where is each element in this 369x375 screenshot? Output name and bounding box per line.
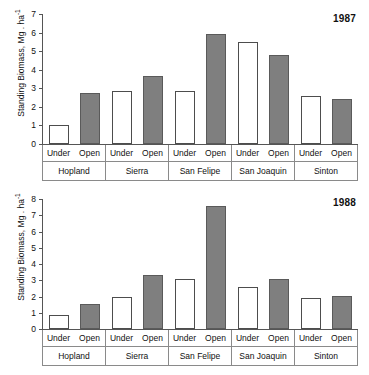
y-axis-tick-label: 4 — [20, 260, 36, 269]
plot-area-1987: 01234567 — [42, 14, 358, 145]
bar-sierra-open — [143, 76, 163, 144]
x-axis-site-label: San Felipe — [169, 347, 231, 366]
x-axis-subcategory-label: Under — [169, 330, 200, 346]
y-axis-tick-label: 3 — [20, 84, 36, 93]
x-axis-subcategory-label: Open — [200, 330, 231, 346]
x-axis-subcategory-row: UnderOpen — [106, 330, 168, 347]
x-axis-subcategory-label: Under — [232, 330, 263, 346]
y-axis-tick-mark — [39, 264, 42, 265]
bar-hopland-open — [80, 93, 100, 144]
x-axis-subcategory-label: Open — [326, 145, 357, 161]
x-axis-labels-1988: UnderOpenHoplandUnderOpenSierraUnderOpen… — [42, 330, 358, 366]
bar-san-felipe-open — [206, 34, 226, 144]
y-axis-tick-mark — [39, 215, 42, 216]
y-axis-tick-label: 7 — [20, 211, 36, 220]
x-axis-subcategory-label: Under — [43, 330, 74, 346]
bar-sinton-open — [332, 296, 352, 329]
x-axis-subcategory-label: Under — [295, 330, 326, 346]
y-axis-tick-mark — [39, 297, 42, 298]
x-axis-group: UnderOpenSierra — [106, 145, 169, 181]
y-axis-tick-label: 6 — [20, 29, 36, 38]
x-axis-subcategory-label: Under — [43, 145, 74, 161]
chart-panel-1988: 1988 Standing Biomass, Mg . ha-1 0123456… — [0, 187, 369, 375]
bar-san-joaquin-under — [238, 287, 258, 329]
x-axis-subcategory-label: Open — [200, 145, 231, 161]
x-axis-subcategory-label: Under — [295, 145, 326, 161]
x-axis-subcategory-row: UnderOpen — [43, 330, 105, 347]
x-axis-subcategory-label: Under — [232, 145, 263, 161]
biomass-figure: 1987 Standing Biomass, Mg . ha-1 0123456… — [0, 0, 369, 375]
x-axis-subcategory-row: UnderOpen — [295, 145, 357, 162]
y-axis-tick-label: 6 — [20, 228, 36, 237]
x-axis-subcategory-label: Open — [137, 330, 168, 346]
x-axis-subcategory-row: UnderOpen — [169, 330, 231, 347]
bar-san-joaquin-open — [269, 279, 289, 329]
x-axis-subcategory-row: UnderOpen — [43, 145, 105, 162]
y-axis-tick-mark — [39, 14, 42, 15]
bar-sinton-open — [332, 99, 352, 144]
x-axis-subcategory-label: Open — [74, 330, 105, 346]
bar-series-1988 — [43, 199, 358, 329]
y-axis-tick-label: 7 — [20, 10, 36, 19]
y-axis-tick-label: 3 — [20, 276, 36, 285]
x-axis-subcategory-row: UnderOpen — [232, 330, 294, 347]
y-axis-tick-label: 8 — [20, 195, 36, 204]
y-axis-tick-label: 0 — [20, 325, 36, 334]
y-axis-tick-mark — [39, 232, 42, 233]
bar-sierra-under — [112, 91, 132, 144]
x-axis-subcategory-label: Open — [263, 145, 294, 161]
x-axis-site-label: Sierra — [106, 347, 168, 366]
x-axis-group: UnderOpenHopland — [43, 145, 106, 181]
x-axis-subcategory-label: Open — [137, 145, 168, 161]
bar-sierra-open — [143, 275, 163, 329]
bar-san-felipe-under — [175, 91, 195, 144]
bar-group — [43, 199, 106, 329]
plot-area-1988: 012345678 — [42, 199, 358, 330]
y-axis-tick-label: 5 — [20, 47, 36, 56]
x-axis-subcategory-label: Under — [169, 145, 200, 161]
chart-panel-1987: 1987 Standing Biomass, Mg . ha-1 0123456… — [0, 0, 369, 188]
bar-group — [106, 199, 169, 329]
y-axis-tick-mark — [39, 248, 42, 249]
x-axis-site-label: San Joaquin — [232, 162, 294, 181]
x-axis-subcategory-row: UnderOpen — [169, 145, 231, 162]
x-axis-group: UnderOpenSinton — [295, 145, 358, 181]
y-axis-tick-label: 0 — [20, 140, 36, 149]
x-axis-subcategory-row: UnderOpen — [295, 330, 357, 347]
bar-san-joaquin-under — [238, 42, 258, 144]
x-axis-subcategory-label: Under — [106, 145, 137, 161]
bar-group — [169, 14, 232, 144]
x-axis-subcategory-label: Open — [326, 330, 357, 346]
x-axis-site-label: San Felipe — [169, 162, 231, 181]
x-axis-group: UnderOpenSan Felipe — [169, 145, 232, 181]
x-axis-subcategory-row: UnderOpen — [232, 145, 294, 162]
y-axis-tick-mark — [39, 280, 42, 281]
y-axis-tick-label: 1 — [20, 309, 36, 318]
y-axis-tick-label: 2 — [20, 103, 36, 112]
bar-sinton-under — [301, 298, 321, 329]
bar-hopland-open — [80, 304, 100, 329]
x-axis-group: UnderOpenHopland — [43, 330, 106, 366]
bar-group — [169, 199, 232, 329]
x-axis-labels-1987: UnderOpenHoplandUnderOpenSierraUnderOpen… — [42, 145, 358, 181]
y-axis-tick-label: 5 — [20, 244, 36, 253]
x-axis-site-label: Sierra — [106, 162, 168, 181]
bar-hopland-under — [49, 315, 69, 329]
bar-san-joaquin-open — [269, 55, 289, 144]
bar-group — [43, 14, 106, 144]
x-axis-site-label: San Joaquin — [232, 347, 294, 366]
x-axis-site-label: Hopland — [43, 162, 105, 181]
y-axis-tick-mark — [39, 313, 42, 314]
bar-sierra-under — [112, 297, 132, 329]
x-axis-site-label: Sinton — [295, 162, 357, 181]
y-axis-tick-mark — [39, 51, 42, 52]
bar-series-1987 — [43, 14, 358, 144]
bar-group — [232, 199, 295, 329]
y-axis-tick-mark — [39, 70, 42, 71]
y-axis-tick-label: 1 — [20, 121, 36, 130]
bar-san-felipe-open — [206, 206, 226, 329]
bar-san-felipe-under — [175, 279, 195, 329]
bar-sinton-under — [301, 96, 321, 144]
x-axis-site-label: Sinton — [295, 347, 357, 366]
x-axis-group: UnderOpenSan Felipe — [169, 330, 232, 366]
